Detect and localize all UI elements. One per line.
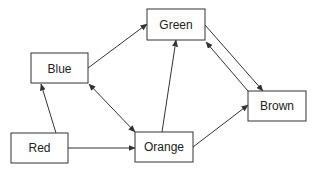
node-orange: Orange bbox=[135, 132, 193, 162]
edge-red-to-blue bbox=[41, 84, 56, 133]
node-label-red: Red bbox=[28, 141, 50, 155]
graph-diagram: Green Blue Brown Red Orange bbox=[0, 0, 314, 174]
edge-blue-to-green bbox=[88, 24, 147, 68]
edge-blue-orange-bidirectional bbox=[89, 84, 135, 132]
edge-orange-to-green bbox=[162, 40, 176, 132]
node-label-blue: Blue bbox=[47, 62, 71, 76]
node-label-orange: Orange bbox=[144, 140, 184, 154]
edge-orange-to-brown bbox=[193, 105, 248, 147]
node-blue: Blue bbox=[31, 53, 88, 83]
node-label-green: Green bbox=[159, 18, 192, 32]
node-brown: Brown bbox=[248, 91, 306, 121]
edge-green-to-brown bbox=[205, 25, 263, 91]
node-green: Green bbox=[147, 9, 205, 40]
node-label-brown: Brown bbox=[260, 99, 294, 113]
node-red: Red bbox=[11, 133, 68, 163]
